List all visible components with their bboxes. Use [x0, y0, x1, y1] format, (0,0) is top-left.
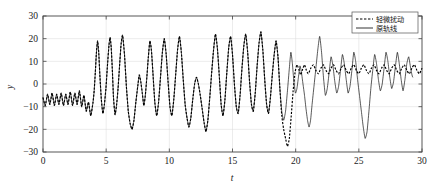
- y-tick-label: 30: [29, 11, 39, 21]
- x-tick-label: 15: [228, 156, 238, 166]
- y-tick-label: 10: [29, 57, 39, 67]
- x-tick-label: 10: [165, 156, 175, 166]
- y-tick-label: −20: [23, 125, 38, 135]
- y-tick-label: −10: [23, 102, 38, 112]
- y-tick-label: −30: [23, 147, 38, 157]
- x-axis-title: t: [231, 173, 234, 183]
- y-axis-title: y: [5, 84, 15, 90]
- y-tick-label: 0: [33, 79, 38, 89]
- chart-canvas: 051015202530 −30−20−100102030 t y 轻微扰动 原…: [0, 0, 434, 188]
- x-tick-label: 5: [104, 156, 109, 166]
- legend-label-perturbed: 轻微扰动: [376, 15, 404, 24]
- x-tick-label: 0: [41, 156, 46, 166]
- x-tick-label: 30: [417, 156, 427, 166]
- chart-figure: 051015202530 −30−20−100102030 t y 轻微扰动 原…: [0, 0, 434, 188]
- legend-label-original: 原轨线: [376, 24, 397, 33]
- chart-legend[interactable]: 轻微扰动 原轨线: [352, 12, 418, 33]
- x-tick-label: 20: [291, 156, 301, 166]
- x-tick-label: 25: [354, 156, 364, 166]
- y-tick-label: 20: [29, 34, 39, 44]
